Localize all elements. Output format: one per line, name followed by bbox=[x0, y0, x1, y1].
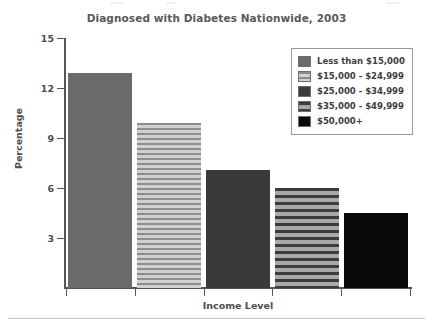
x-tick-mark bbox=[204, 289, 205, 296]
legend-item: Less than $15,000 bbox=[298, 54, 407, 69]
y-tick-mark bbox=[57, 88, 64, 89]
x-tick-mark bbox=[135, 289, 136, 296]
legend-swatch-icon bbox=[298, 56, 311, 67]
bottom-rule bbox=[8, 318, 425, 319]
legend-swatch-icon bbox=[298, 116, 311, 127]
bar-chart: Diagnosed with Diabetes Nationwide, 2003… bbox=[0, 0, 433, 327]
y-tick-label: 9 bbox=[24, 133, 54, 144]
bar bbox=[137, 123, 201, 288]
legend: Less than $15,000$15,000 - $24,999$25,00… bbox=[291, 48, 413, 135]
legend-item: $50,000+ bbox=[298, 114, 407, 129]
scan-artifact bbox=[166, 2, 176, 4]
y-tick-label: 3 bbox=[24, 233, 54, 244]
legend-item-label: Less than $15,000 bbox=[317, 56, 405, 67]
bar bbox=[344, 213, 408, 288]
legend-swatch-icon bbox=[298, 86, 311, 97]
x-tick-mark bbox=[341, 289, 342, 296]
y-tick-mark bbox=[57, 188, 64, 189]
chart-title: Diagnosed with Diabetes Nationwide, 2003 bbox=[0, 12, 433, 24]
x-tick-mark bbox=[410, 289, 411, 296]
y-tick-mark bbox=[57, 138, 64, 139]
scan-artifact bbox=[110, 2, 124, 4]
y-tick-mark bbox=[57, 38, 64, 39]
y-tick-mark bbox=[57, 238, 64, 239]
legend-swatch-icon bbox=[298, 101, 311, 112]
bar bbox=[68, 73, 132, 288]
x-axis-title: Income Level bbox=[64, 300, 412, 311]
legend-item-label: $50,000+ bbox=[317, 116, 363, 127]
legend-item: $15,000 - $24,999 bbox=[298, 69, 407, 84]
legend-item: $25,000 - $34,999 bbox=[298, 84, 407, 99]
legend-swatch-icon bbox=[298, 71, 311, 82]
legend-item: $35,000 - $49,999 bbox=[298, 99, 407, 114]
bar bbox=[275, 188, 339, 288]
y-tick-label: 15 bbox=[24, 33, 54, 44]
y-tick-label: 6 bbox=[24, 183, 54, 194]
legend-item-label: $25,000 - $34,999 bbox=[317, 86, 404, 97]
legend-item-label: $35,000 - $49,999 bbox=[317, 101, 404, 112]
x-tick-mark bbox=[272, 289, 273, 296]
y-tick-label: 12 bbox=[24, 83, 54, 94]
legend-item-label: $15,000 - $24,999 bbox=[317, 71, 404, 82]
bar bbox=[206, 170, 270, 288]
x-tick-mark bbox=[66, 289, 67, 296]
scan-artifact bbox=[386, 2, 400, 4]
